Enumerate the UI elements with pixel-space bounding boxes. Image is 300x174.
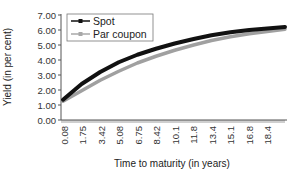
legend-spot-marker-icon	[79, 19, 83, 23]
legend: Spot Par coupon	[67, 14, 153, 41]
y-tick-label: 5.00	[38, 40, 57, 51]
y-tick-label: 1.00	[38, 100, 57, 111]
x-tick-label: 15.1	[225, 126, 236, 145]
y-tick-label: 0.00	[38, 115, 57, 126]
x-tick-label: 6.75	[133, 126, 144, 145]
x-tick-label: 18.4	[262, 126, 273, 145]
x-tick-label: 0.08	[59, 126, 70, 145]
x-tick-label: 1.75	[77, 126, 88, 145]
x-tick-label: 13.4	[207, 126, 218, 145]
x-tick-label: 5.08	[114, 126, 125, 145]
legend-par-coupon-label: Par coupon	[93, 28, 147, 40]
x-tick-label: 3.42	[96, 126, 107, 145]
yield-curve-chart: 0.001.002.003.004.005.006.007.00 0.081.7…	[0, 0, 300, 174]
y-axis-title: Yield (in per cent)	[2, 28, 13, 106]
legend-spot-label: Spot	[93, 15, 115, 27]
y-tick-label: 3.00	[38, 70, 57, 81]
y-tick-label: 6.00	[38, 25, 57, 36]
y-tick-label: 4.00	[38, 55, 57, 66]
x-tick-label: 11.8	[188, 126, 199, 144]
y-tick-label: 7.00	[38, 10, 57, 21]
y-axis-ticks: 0.001.002.003.004.005.006.007.00	[38, 10, 62, 126]
x-axis-ticks: 0.081.753.425.086.758.4210.111.813.415.1…	[59, 120, 284, 145]
x-tick-label: 16.8	[244, 126, 255, 145]
x-axis-title: Time to maturity (in years)	[114, 158, 230, 169]
x-tick-label: 8.42	[151, 126, 162, 145]
legend-par-marker-icon	[79, 32, 83, 36]
y-tick-label: 2.00	[38, 85, 57, 96]
x-tick-label: 10.1	[170, 126, 181, 145]
